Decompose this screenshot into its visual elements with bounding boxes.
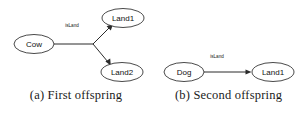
edge-line-cow-land2 xyxy=(93,44,108,62)
node-dog[interactable]: Dog xyxy=(164,63,204,82)
figure-panel: isLand Cow Land1 Land2 (a) xyxy=(0,0,305,117)
node-label-land2: Land2 xyxy=(111,68,134,77)
edge-cow-land1: isLand xyxy=(54,23,113,44)
node-label-dog: Dog xyxy=(177,68,192,77)
node-land1[interactable]: Land1 xyxy=(252,63,294,82)
edge-label-dog-land1: isLand xyxy=(210,54,224,59)
figure-first-offspring: isLand Cow Land1 Land2 (a) xyxy=(0,0,152,117)
node-label-land1: Land1 xyxy=(112,14,135,23)
arrowhead-icon xyxy=(246,69,252,74)
edge-cow-land2 xyxy=(93,44,111,66)
node-label-land1: Land1 xyxy=(262,68,285,77)
node-label-cow: Cow xyxy=(26,40,42,49)
figure-caption-a: (a) First offspring xyxy=(0,88,152,103)
edge-line-cow-land1 xyxy=(54,27,110,44)
node-cow[interactable]: Cow xyxy=(14,35,54,54)
edge-dog-land1: isLand xyxy=(204,54,252,74)
node-land1[interactable]: Land1 xyxy=(102,9,144,28)
graph-second-offspring: isLand Dog Land1 xyxy=(152,0,305,88)
node-land2[interactable]: Land2 xyxy=(101,63,143,82)
graph-first-offspring: isLand Cow Land1 Land2 xyxy=(0,0,152,88)
figure-second-offspring: isLand Dog Land1 (b) Second offspring xyxy=(152,0,305,117)
edge-label-cow-land1: isLand xyxy=(65,23,79,28)
figure-caption-b: (b) Second offspring xyxy=(152,88,305,103)
